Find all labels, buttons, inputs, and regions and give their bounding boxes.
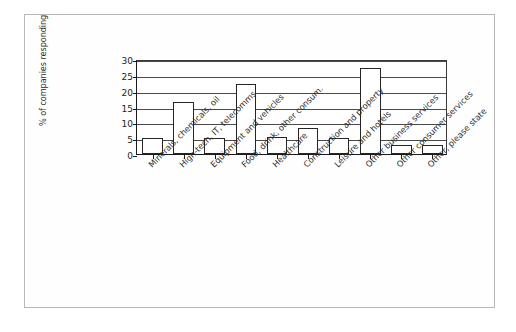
x-axis-label: Leisure and hotels [333, 109, 393, 169]
x-axis-labels-group: Minerals, chemicals, oilHigh-tech, IT, t… [0, 0, 516, 332]
x-axis-label: Other, please state [426, 107, 488, 169]
page-background: % of companies responding 051015202530 M… [0, 0, 516, 332]
bar-chart-figure: % of companies responding 051015202530 M… [0, 0, 516, 332]
